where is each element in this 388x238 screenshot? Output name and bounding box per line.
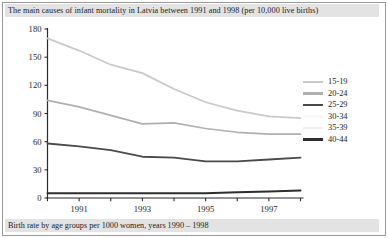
legend-swatch-icon [303,104,323,107]
legend-swatch-icon [303,115,323,118]
legend-item-20-24[interactable]: 20-24 [303,88,383,100]
chart-title: The main causes of infant mortality in L… [5,4,379,17]
legend-item-label: 25-29 [328,99,348,111]
legend-item-15-19[interactable]: 15-19 [303,76,383,88]
legend-item-label: 20-24 [328,88,348,100]
chart-screenshot: The main causes of infant mortality in L… [0,0,388,238]
legend-item-25-29[interactable]: 25-29 [303,99,383,111]
legend-item-40-44[interactable]: 40-44 [303,134,383,146]
legend-item-30-34[interactable]: 30-34 [303,111,383,123]
chart-legend: 15-1920-2425-2930-3435-3940-44 [303,76,383,146]
legend-swatch-icon [303,138,323,141]
legend-item-label: 40-44 [328,134,348,146]
legend-item-35-39[interactable]: 35-39 [303,122,383,134]
legend-item-label: 30-34 [328,111,348,123]
legend-item-label: 35-39 [328,122,348,134]
legend-swatch-icon [303,127,323,130]
legend-swatch-icon [303,81,323,84]
chart-caption: Birth rate by age groups per 1000 women,… [5,219,379,232]
legend-item-label: 15-19 [328,76,348,88]
legend-swatch-icon [303,92,323,95]
